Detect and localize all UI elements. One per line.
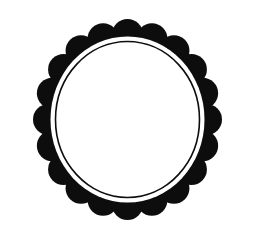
blank-interior-field xyxy=(58,44,198,196)
artwork-svg xyxy=(0,0,257,239)
screenshot-canvas xyxy=(0,0,257,239)
scalloped-oval-artwork xyxy=(0,0,257,239)
